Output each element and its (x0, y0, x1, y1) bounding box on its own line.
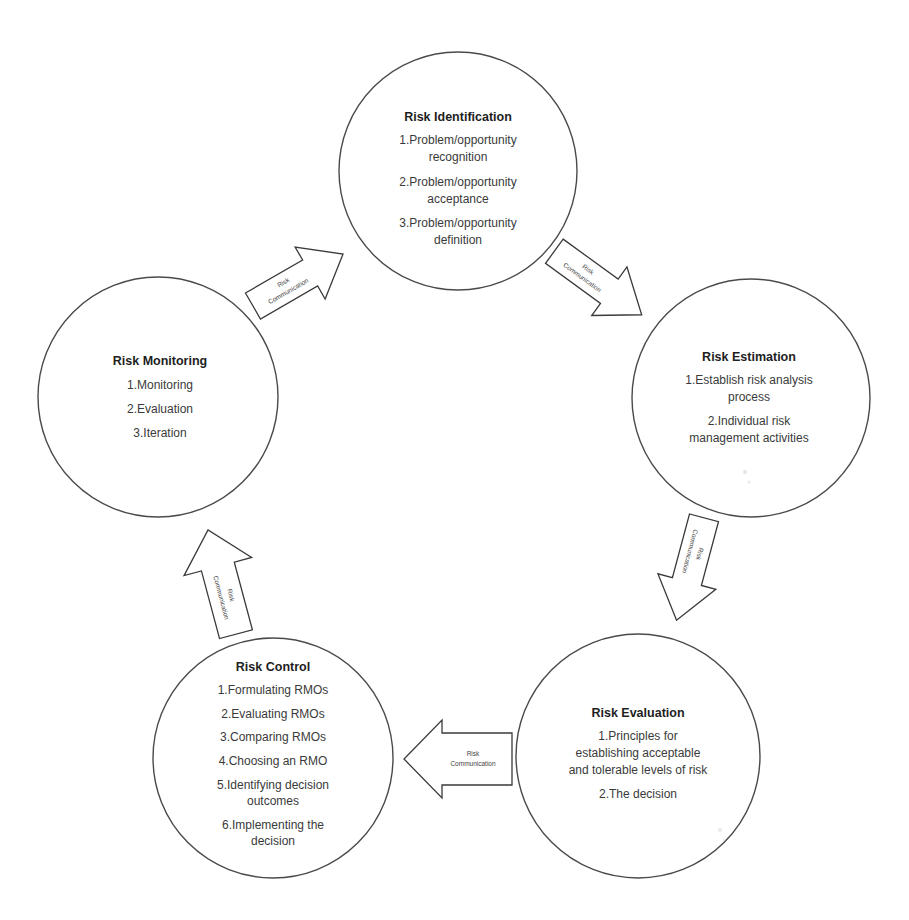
node-item: recognition (429, 150, 488, 164)
block-arrow-icon (174, 521, 270, 643)
node-item: 2.Evaluation (127, 402, 193, 416)
node-item: and tolerable levels of risk (569, 763, 709, 777)
block-arrow-icon (404, 720, 512, 798)
node-item: 6.Implementing the (222, 818, 324, 832)
node-title: Risk Estimation (702, 350, 796, 364)
risk-management-cycle-diagram: Risk Identification 1.Problem/opportunit… (0, 0, 909, 920)
arrow-evaluation-to-control: Risk Communication (404, 720, 512, 798)
node-item: establishing acceptable (576, 746, 701, 760)
node-circle (339, 52, 577, 290)
arrow-identification-to-estimation: Risk Communication (537, 227, 660, 339)
node-title: Risk Control (236, 660, 310, 674)
node-item: 3.Comparing RMOs (220, 730, 326, 744)
node-item: acceptance (427, 192, 489, 206)
node-risk-control: Risk Control 1.Formulating RMOs 2.Evalua… (153, 638, 393, 878)
node-item: definition (434, 233, 482, 247)
node-item: 3.Problem/opportunity (399, 216, 516, 230)
node-title: Risk Identification (404, 110, 512, 124)
node-item: process (728, 390, 770, 404)
block-arrow-icon (648, 510, 733, 628)
node-item: 1.Monitoring (127, 378, 193, 392)
node-item: 4.Choosing an RMO (219, 754, 328, 768)
node-item: 5.Identifying decision (217, 778, 329, 792)
node-risk-monitoring: Risk Monitoring 1.Monitoring 2.Evaluatio… (38, 277, 278, 517)
node-item: 2.The decision (599, 787, 677, 801)
node-item: 1.Principles for (598, 729, 677, 743)
arrow-label: Risk (467, 750, 480, 757)
arrow-estimation-to-evaluation: Risk Communication (648, 510, 733, 628)
node-risk-estimation: Risk Estimation 1.Establish risk analysi… (632, 279, 870, 517)
node-item: 2.Problem/opportunity (399, 175, 516, 189)
node-risk-identification: Risk Identification 1.Problem/opportunit… (339, 52, 577, 290)
node-item: 1.Formulating RMOs (218, 683, 329, 697)
node-item: management activities (689, 431, 808, 445)
arrow-control-to-monitoring: Risk Communication (174, 521, 270, 643)
node-title: Risk Monitoring (113, 354, 207, 368)
node-item: 2.Individual risk (708, 414, 792, 428)
node-item: 1.Problem/opportunity (399, 133, 516, 147)
block-arrow-icon (238, 228, 358, 332)
arrow-label: Communication (450, 760, 496, 767)
node-circle (38, 277, 278, 517)
node-title: Risk Evaluation (591, 706, 684, 720)
node-item: 2.Evaluating RMOs (221, 707, 324, 721)
block-arrow-icon (537, 227, 660, 339)
node-risk-evaluation: Risk Evaluation 1.Principles for establi… (516, 634, 760, 878)
node-item: 3.Iteration (133, 426, 186, 440)
arrow-monitoring-to-identification: Risk Communication (238, 228, 358, 332)
node-item: decision (251, 834, 295, 848)
node-item: outcomes (247, 794, 299, 808)
node-item: 1.Establish risk analysis (685, 373, 812, 387)
